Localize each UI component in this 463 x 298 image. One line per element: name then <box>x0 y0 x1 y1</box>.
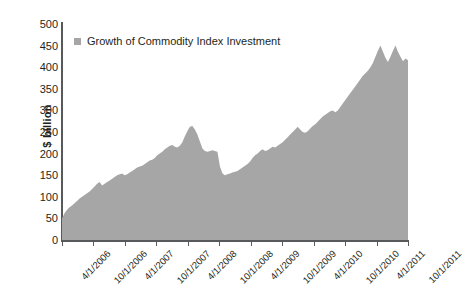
x-axis-tick: 10/1/2007 <box>175 248 213 286</box>
x-axis-tick-labels: 4/1/200610/1/20064/1/200710/1/20074/1/20… <box>62 242 408 292</box>
x-axis-tick-mark <box>156 242 157 246</box>
y-axis-tick: 100 <box>30 192 58 202</box>
x-axis-tick-mark <box>93 242 94 246</box>
x-axis-tick-mark <box>251 242 252 246</box>
x-axis-tick-mark <box>219 242 220 246</box>
x-axis-tick-mark <box>314 242 315 246</box>
y-axis-tick-labels: 050100150200250300350400450500 <box>26 24 58 240</box>
x-axis-tick-mark <box>62 242 63 246</box>
y-axis-tick: 150 <box>30 170 58 180</box>
x-axis-tick: 10/1/2008 <box>238 248 276 286</box>
plot-area <box>62 24 408 240</box>
x-axis-tick: 10/1/2006 <box>112 248 150 286</box>
x-axis-tick-mark <box>125 242 126 246</box>
y-axis-tick: 0 <box>30 235 58 245</box>
y-axis-tick: 450 <box>30 41 58 51</box>
chart-legend: Growth of Commodity Index Investment <box>74 35 280 47</box>
legend-swatch-icon <box>74 38 81 45</box>
y-axis-tick: 250 <box>30 127 58 137</box>
x-axis-tick-mark <box>377 242 378 246</box>
x-axis-tick-mark <box>282 242 283 246</box>
x-axis-tick: 10/1/2010 <box>363 248 401 286</box>
area-series-shape <box>62 46 408 240</box>
x-axis-tick: 10/1/2011 <box>426 248 463 285</box>
y-axis-tick: 400 <box>30 62 58 72</box>
x-axis-tick: 10/1/2009 <box>301 248 339 286</box>
y-axis-tick: 500 <box>30 19 58 29</box>
legend-label: Growth of Commodity Index Investment <box>87 35 280 47</box>
y-axis-tick: 350 <box>30 84 58 94</box>
area-series-svg <box>62 24 408 240</box>
y-axis-tick: 300 <box>30 105 58 115</box>
y-axis-tick: 200 <box>30 149 58 159</box>
x-axis-tick-mark <box>188 242 189 246</box>
y-axis-tick: 50 <box>30 213 58 223</box>
x-axis-tick-mark <box>345 242 346 246</box>
x-axis-tick: 4/1/2006 <box>79 248 113 282</box>
x-axis-tick-mark <box>408 242 409 246</box>
